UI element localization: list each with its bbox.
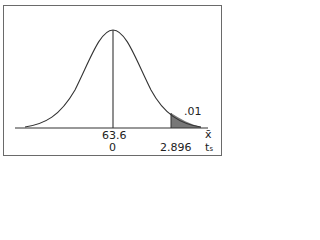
zero-label: 0 [109,142,116,154]
tail-area-label: .01 [184,106,202,118]
xbar-axis-label: x̄ [205,129,212,141]
critical-value-label: 2.896 [160,142,192,154]
ts-axis-label: tₛ [205,142,213,154]
